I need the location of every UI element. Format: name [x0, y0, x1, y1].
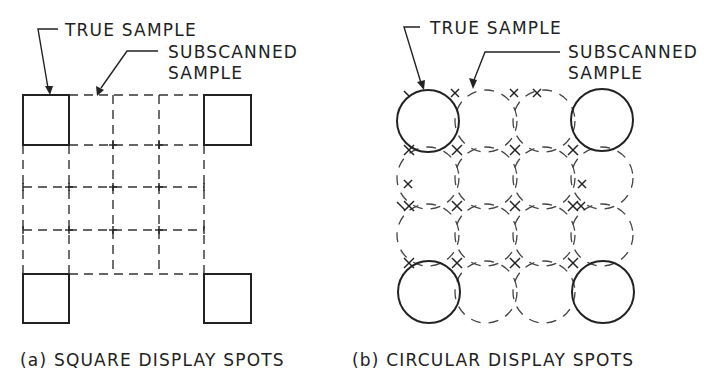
label-subscanned-a-line2: SAMPLE	[168, 63, 243, 83]
label-subscanned-b-line2: SAMPLE	[568, 63, 643, 83]
caption-a: (a) SQUARE DISPLAY SPOTS	[20, 350, 285, 370]
leader-true-sample-a	[38, 29, 58, 95]
true-sample-circle-top-right	[571, 89, 633, 151]
subscanned-grid-square	[23, 95, 204, 274]
leader-subscanned-sample-b	[469, 52, 560, 89]
panel-b-circular-display-spots: TRUE SAMPLE SUBSCANNED SAMPLE (b) CIRCUL…	[352, 18, 698, 370]
caption-b: (b) CIRCULAR DISPLAY SPOTS	[352, 350, 634, 370]
label-subscanned-b-line1: SUBSCANNED	[568, 42, 698, 62]
leader-subscanned-sample-a	[96, 51, 158, 96]
label-true-sample-a: TRUE SAMPLE	[64, 20, 197, 40]
true-sample-circle-bottom-left	[398, 261, 460, 323]
true-sample-square-top-right	[204, 95, 251, 145]
leader-true-sample-b	[404, 27, 425, 90]
true-sample-square-bottom-left	[23, 274, 69, 323]
true-sample-square-top-left	[23, 95, 69, 145]
panel-a-square-display-spots: TRUE SAMPLE SUBSCANNED SAMPLE (a) SQUARE…	[20, 20, 298, 370]
true-sample-circle-top-left	[397, 90, 459, 152]
label-true-sample-b: TRUE SAMPLE	[429, 18, 562, 38]
label-subscanned-a-line1: SUBSCANNED	[168, 42, 298, 62]
display-spots-figure: TRUE SAMPLE SUBSCANNED SAMPLE (a) SQUARE…	[0, 0, 714, 385]
true-sample-square-bottom-right	[204, 274, 251, 323]
true-sample-circle-bottom-right	[572, 261, 634, 323]
intersection-x-marks	[397, 89, 586, 268]
